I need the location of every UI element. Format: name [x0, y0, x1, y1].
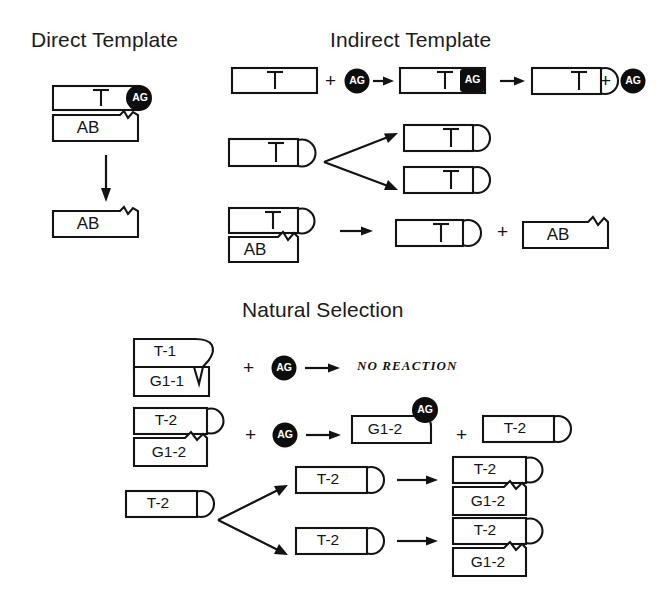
natural-row3-child-bottom-t2: T-2 — [295, 524, 387, 558]
natural-row3-branch-arrows — [216, 478, 294, 560]
branch-arrow-down — [324, 162, 398, 190]
natural-row2-product-g12-ag: AG G1-2 — [351, 398, 457, 446]
natural-row3-child-top-t2: T-2 — [295, 463, 387, 497]
indirect-row1-plus-1: + — [325, 71, 336, 90]
t2-label: T-2 — [317, 531, 339, 548]
figure-canvas: Direct Template Indirect Template Natura… — [0, 0, 671, 593]
indirect-row2-child-bottom — [403, 163, 495, 197]
strand-box-t — [229, 208, 298, 233]
t2-label: T-2 — [155, 411, 177, 428]
indirect-row3-duplex: AB — [228, 206, 324, 264]
natural-row3-arrow-bottom — [397, 534, 439, 548]
indirect-row1-plus-2: + — [600, 71, 611, 90]
t2-label: T-2 — [474, 521, 496, 538]
branch-arrow-up — [324, 133, 398, 162]
indirect-row2-branch-arrows — [322, 130, 404, 192]
natural-row3-result-top-duplex: T-2 G1-2 — [452, 455, 556, 517]
indirect-row1-reactant-t — [231, 66, 319, 96]
direct-template-product-ab: AB — [52, 205, 152, 239]
natural-row2-plus-1: + — [245, 425, 256, 444]
natural-row2-duplex-t2-g12: T-2 G1-2 — [133, 406, 237, 468]
natural-row2-arrow — [306, 428, 342, 442]
indirect-row1-released-ag: AG — [620, 68, 646, 94]
indirect-row1-monomer-ag: AG — [344, 68, 370, 94]
indirect-row3-plus: + — [497, 222, 508, 241]
natural-row2-plus-2: + — [456, 425, 467, 444]
ag-label: AG — [349, 74, 365, 86]
ag-label: AG — [276, 361, 292, 373]
g12-label: G1-2 — [471, 492, 505, 509]
branch-arrow-down — [218, 520, 288, 555]
section-title-direct-template: Direct Template — [31, 28, 178, 52]
natural-row1-duplex-t1-g11: T-1 G1-1 — [133, 338, 233, 398]
strand-box-t — [229, 139, 298, 166]
bound-monomer-ag: AG — [460, 69, 485, 92]
ag-label: AG — [417, 403, 433, 415]
t2-label: T-2 — [317, 470, 339, 487]
natural-row1-arrow — [305, 361, 341, 375]
indirect-row1-complex-t-ag: AG — [399, 66, 489, 96]
bound-monomer-ag: AG — [412, 397, 438, 423]
t2-label: T-2 — [147, 494, 169, 511]
indirect-row2-parent-t-loop — [228, 135, 320, 171]
natural-row3-arrow-top — [397, 473, 439, 487]
section-title-indirect-template: Indirect Template — [330, 28, 491, 52]
ag-label: AG — [625, 74, 641, 86]
section-title-natural-selection: Natural Selection — [242, 298, 404, 322]
g12-label: G1-2 — [152, 443, 186, 460]
indirect-row3-arrow — [340, 224, 374, 238]
ab-label: AB — [77, 118, 100, 137]
direct-template-arrow-down — [95, 155, 117, 203]
indirect-row3-product-ab: AB — [522, 214, 622, 250]
activated-monomer-ag: AG — [126, 85, 152, 111]
natural-row2-monomer-ag: AG — [272, 422, 298, 448]
natural-row1-monomer-ag: AG — [271, 355, 297, 381]
t2-label: T-2 — [504, 419, 526, 436]
natural-row1-no-reaction-text: NO REACTION — [357, 358, 458, 374]
ag-label: AG — [132, 91, 148, 103]
ag-label: AG — [465, 73, 481, 85]
strand-box-t — [404, 167, 473, 193]
t1-label: T-1 — [154, 342, 176, 359]
g11-label: G1-1 — [150, 372, 184, 389]
indirect-row1-arrow-1 — [373, 74, 395, 88]
g12-label: G1-2 — [471, 553, 505, 570]
g12-label: G1-2 — [368, 420, 402, 437]
natural-row3-parent-t2: T-2 — [125, 487, 217, 521]
strand-box-t — [404, 125, 473, 151]
ag-label: AG — [277, 428, 293, 440]
strand-box-t — [532, 68, 601, 94]
direct-template-duplex: AG AB — [52, 85, 167, 143]
indirect-row1-arrow-2 — [500, 74, 526, 88]
branch-arrow-up — [218, 485, 288, 520]
indirect-row2-child-top — [403, 121, 495, 155]
ab-product-label: AB — [77, 214, 100, 233]
natural-row2-product-t2: T-2 — [482, 412, 574, 446]
strand-box-t — [396, 220, 463, 246]
natural-row1-plus: + — [243, 358, 254, 377]
indirect-row3-product-t-loop — [395, 216, 487, 250]
ab-label: AB — [244, 240, 267, 259]
ab-label: AB — [547, 225, 570, 244]
t2-label: T-2 — [474, 460, 496, 477]
natural-row3-result-bottom-duplex: T-2 G1-2 — [452, 516, 556, 578]
